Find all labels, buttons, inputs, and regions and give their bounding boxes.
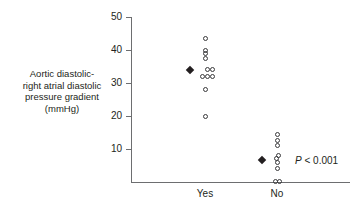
y-axis-label-line-3: pressure gradient — [6, 91, 118, 103]
y-axis-tick — [126, 17, 131, 18]
x-axis-line — [131, 182, 350, 183]
data-point — [205, 74, 210, 79]
data-point — [277, 179, 282, 184]
y-tick-label-20: 20 — [98, 111, 122, 121]
y-axis-tick — [126, 50, 131, 51]
data-point — [203, 87, 208, 92]
data-point — [205, 67, 210, 72]
data-point — [210, 74, 215, 79]
scatter-plot-figure: Aortic diastolic- right atrial diastolic… — [0, 0, 357, 207]
p-value-annotation: P < 0.001 — [295, 155, 338, 166]
data-point — [200, 74, 205, 79]
y-tick-label-40: 40 — [98, 45, 122, 55]
data-point — [275, 143, 280, 148]
y-axis-line — [131, 17, 132, 183]
y-tick-label-10: 10 — [98, 144, 122, 154]
p-value-symbol: P — [295, 155, 302, 166]
mean-marker — [186, 66, 194, 74]
y-tick-label-30: 30 — [98, 78, 122, 88]
data-point — [210, 67, 215, 72]
y-tick-label-50: 50 — [98, 12, 122, 22]
y-axis-tick — [126, 83, 131, 84]
p-value-rest: < 0.001 — [302, 155, 338, 166]
x-tick-label-no: No — [247, 188, 307, 200]
data-point — [275, 166, 280, 171]
y-axis-label: Aortic diastolic- right atrial diastolic… — [6, 68, 118, 114]
y-axis-tick — [126, 116, 131, 117]
y-axis-tick — [126, 149, 131, 150]
data-point — [203, 114, 208, 119]
data-point — [203, 56, 208, 61]
mean-marker — [258, 155, 266, 163]
data-point — [275, 160, 280, 165]
x-tick-label-yes: Yes — [175, 188, 235, 200]
data-point — [203, 36, 208, 41]
data-point — [275, 132, 280, 137]
